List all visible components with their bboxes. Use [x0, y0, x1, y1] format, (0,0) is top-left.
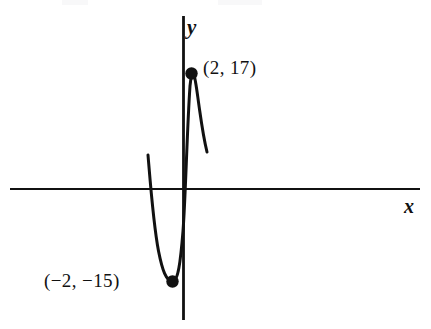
local-minimum-dot: [166, 275, 178, 287]
local-maximum-label: (2, 17): [203, 58, 256, 77]
graph-figure: y x (2, 17) (−2, −15): [0, 0, 431, 329]
y-axis-label: y: [187, 17, 196, 38]
x-axis-label: x: [404, 196, 414, 216]
cubic-curve: [148, 74, 207, 282]
local-maximum-dot: [185, 67, 197, 79]
local-minimum-label: (−2, −15): [44, 271, 120, 290]
